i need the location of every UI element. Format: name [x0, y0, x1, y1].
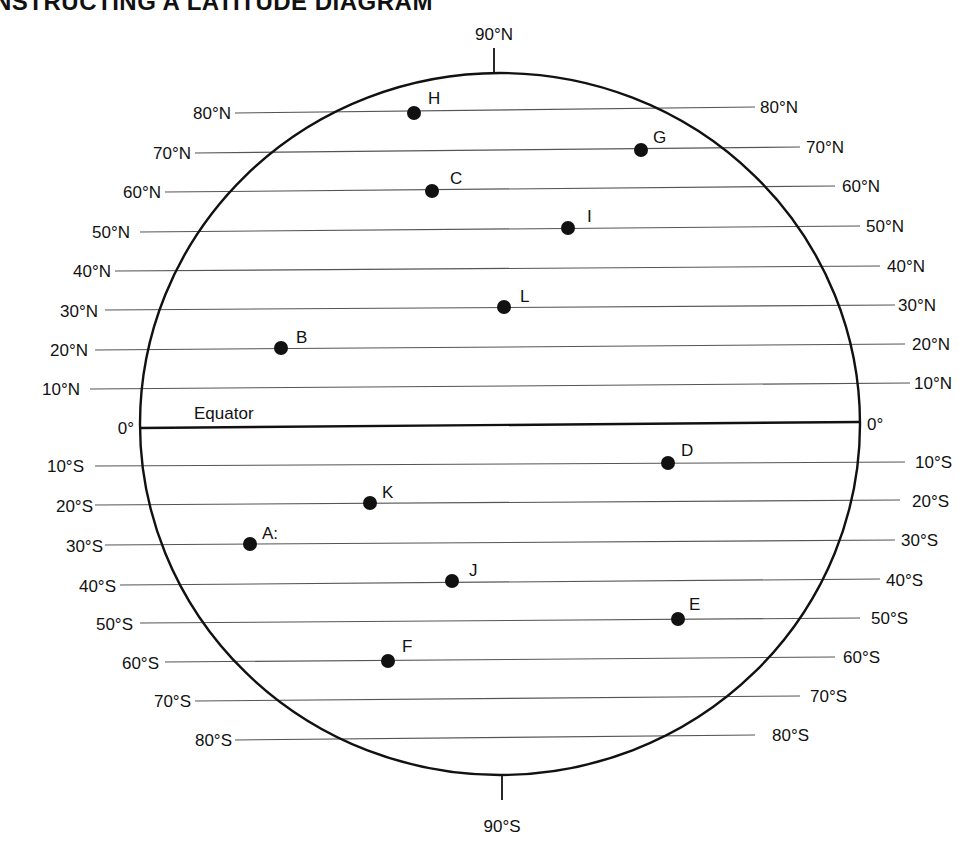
lat-line-10n — [90, 383, 910, 389]
lat-label-right: 20°S — [912, 492, 949, 511]
lat-label-right: 70°N — [806, 138, 844, 157]
lat-line-70n — [195, 147, 800, 153]
point-c-dot — [425, 184, 439, 198]
point-k-dot — [363, 496, 377, 510]
point-h-dot — [407, 106, 421, 120]
point-h-label: H — [428, 89, 440, 108]
lat-label-right: 10°N — [914, 374, 952, 393]
lat-label-left: 10°N — [42, 380, 80, 399]
point-g-dot — [634, 143, 648, 157]
lat-label-right: 30°S — [901, 531, 938, 550]
lat-label-left: 30°S — [66, 537, 103, 556]
point-e-dot — [671, 612, 685, 626]
point-d-dot — [661, 456, 675, 470]
lat-line-20n — [95, 344, 905, 350]
lat-line-50s — [140, 618, 860, 623]
latitude-diagram: 90°N 90°S Equator 80°N 70°N 60°N 50°N 40… — [0, 0, 979, 851]
lat-label-right: 50°S — [871, 609, 908, 628]
equator-label: Equator — [194, 404, 254, 423]
lat-label-left: 20°S — [56, 497, 93, 516]
point-g-label: G — [653, 128, 666, 147]
lat-label-right: 50°N — [866, 217, 904, 236]
lat-line-30s — [105, 540, 895, 545]
lat-line-40n — [115, 266, 880, 271]
lat-label-right: 60°S — [843, 648, 880, 667]
lat-line-70s — [195, 696, 800, 701]
point-b-dot — [274, 341, 288, 355]
lat-line-10s — [95, 462, 905, 466]
point-f-dot — [381, 654, 395, 668]
point-l-label: L — [520, 287, 529, 306]
lat-line-20s — [95, 500, 900, 505]
lat-label-left: 70°S — [154, 692, 191, 711]
lat-label-left: 50°N — [92, 223, 130, 242]
lat-line-50n — [140, 226, 860, 232]
lat-label-left: 40°S — [79, 577, 116, 596]
point-f-label: F — [402, 637, 412, 656]
point-a-label: A: — [262, 524, 278, 543]
lat-label-right: 30°N — [898, 296, 936, 315]
point-j-dot — [445, 574, 459, 588]
lat-label-right: 20°N — [912, 335, 950, 354]
lat-line-60s — [165, 657, 835, 662]
north-pole-label: 90°N — [475, 25, 513, 44]
point-c-label: C — [450, 169, 462, 188]
lat-label-right: 80°S — [772, 726, 809, 745]
lat-label-left: 80°S — [195, 731, 232, 750]
lat-label-left: 0° — [118, 419, 134, 438]
lat-label-right: 70°S — [810, 687, 847, 706]
lat-label-left: 30°N — [60, 302, 98, 321]
lat-line-80n — [235, 107, 755, 113]
lat-line-80s — [235, 735, 755, 740]
point-i-label: I — [587, 207, 592, 226]
lat-label-right: 10°S — [915, 453, 952, 472]
point-i-dot — [561, 221, 575, 235]
lat-label-left: 40°N — [73, 262, 111, 281]
point-d-label: D — [681, 441, 693, 460]
lat-label-right: 80°N — [760, 98, 798, 117]
lat-label-left: 20°N — [50, 341, 88, 360]
point-e-label: E — [689, 595, 700, 614]
point-a-dot — [243, 537, 257, 551]
lat-label-left: 60°N — [123, 183, 161, 202]
lat-label-right: 40°S — [886, 571, 923, 590]
point-j-label: J — [469, 561, 478, 580]
point-k-label: K — [382, 483, 394, 502]
lat-line-60n — [165, 186, 835, 192]
lat-label-left: 60°S — [122, 654, 159, 673]
point-l-dot — [497, 300, 511, 314]
lat-label-right: 0° — [867, 415, 883, 434]
lat-label-left: 10°S — [47, 457, 84, 476]
lat-label-left: 70°N — [153, 144, 191, 163]
lat-line-40s — [120, 579, 880, 585]
point-b-label: B — [296, 328, 307, 347]
lat-label-right: 60°N — [842, 177, 880, 196]
lat-label-right: 40°N — [887, 257, 925, 276]
south-pole-label: 90°S — [483, 817, 520, 836]
lat-label-left: 80°N — [193, 104, 231, 123]
lat-label-left: 50°S — [96, 615, 133, 634]
